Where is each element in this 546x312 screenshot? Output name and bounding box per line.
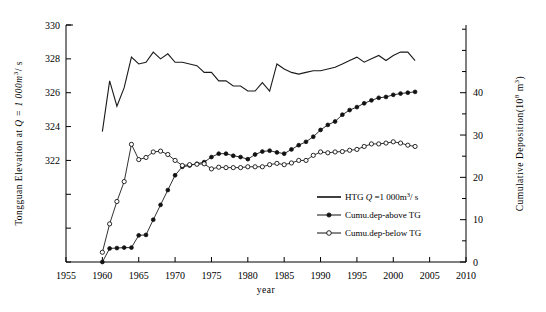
x-tick-label: 1990 [311,270,331,281]
series-line-0 [102,52,415,132]
series-marker-2 [166,152,170,156]
left-tick-label: 324 [45,121,60,132]
series-marker-2 [122,179,126,183]
right-tick-label: 40 [473,87,483,98]
series-marker-1 [399,92,403,96]
right-axis-title-close: ) [515,76,526,80]
series-marker-2 [144,155,148,159]
series-marker-2 [188,163,192,167]
series-marker-2 [282,163,286,167]
chart-root: 3223243263283300102030401955196019651970… [0,0,546,312]
series-marker-2 [195,162,199,166]
series-marker-2 [238,166,242,170]
legend-label-1: Cumu.dep-above TG [345,210,421,220]
series-marker-2 [231,166,235,170]
left-tick-label: 322 [45,155,60,166]
series-marker-1 [239,155,243,159]
series-marker-2 [224,166,228,170]
series-marker-1 [217,152,221,156]
series-marker-1 [297,143,301,147]
right-tick-label: 10 [473,214,483,225]
series-marker-2 [129,142,133,146]
x-tick-label: 2005 [420,270,440,281]
series-marker-2 [137,157,141,161]
series-marker-2 [384,141,388,145]
series-marker-1 [362,101,366,105]
series-marker-2 [289,161,293,165]
x-tick-label: 1995 [347,270,367,281]
series-marker-2 [246,165,250,169]
series-marker-1 [355,105,359,109]
x-tick-label: 1985 [274,270,294,281]
series-marker-1 [173,173,177,177]
series-marker-2 [355,147,359,151]
left-axis-title-q: Q = 1 000m [14,75,24,126]
series-marker-2 [369,142,373,146]
series-marker-2 [326,151,330,155]
series-marker-2 [340,149,344,153]
series-marker-1 [384,95,388,99]
legend-label-0: HTG Q =1 000m3/ s [345,191,419,203]
series-marker-1 [377,96,381,100]
series-marker-2 [377,142,381,146]
x-tick-label: 1955 [56,270,76,281]
series-marker-1 [268,149,272,153]
series-marker-1 [108,247,112,251]
series-marker-1 [166,188,170,192]
series-marker-1 [311,135,315,139]
series-marker-1 [333,120,337,124]
x-tick-label: 1965 [129,270,149,281]
series-marker-2 [391,140,395,144]
legend-label-pre-0: HTG [345,192,366,202]
series-marker-2 [413,144,417,148]
series-marker-1 [326,123,330,127]
x-tick-label: 1970 [165,270,185,281]
series-marker-2 [100,250,104,254]
series-marker-1 [406,91,410,95]
series-marker-1 [144,233,148,237]
series-marker-1 [290,148,294,152]
series-marker-2 [253,165,257,169]
right-axis-title-pre: Cumulative Deposition(10 [515,98,526,211]
right-axis-title-mid: m [515,83,525,94]
series-marker-2 [398,141,402,145]
series-marker-1 [224,152,228,156]
x-tick-label: 1960 [92,270,112,281]
series-marker-1 [260,150,264,154]
series-marker-2 [260,165,264,169]
legend-marker-1 [327,213,331,217]
series-marker-1 [413,90,417,94]
series-marker-2 [209,167,213,171]
x-axis-title: year [257,285,276,295]
series-marker-2 [151,150,155,154]
chart-canvas: 3223243263283300102030401955196019651970… [0,0,546,312]
legend-label-tail-0: / s [410,192,419,202]
right-tick-label: 20 [473,172,483,183]
left-axis-title: Tongguan Elevation at Q = 1 000m3/ s [12,61,24,226]
series-marker-1 [304,140,308,144]
series-marker-2 [275,161,279,165]
series-marker-1 [210,155,214,159]
left-tick-label: 328 [45,53,60,64]
series-marker-1 [122,246,126,250]
right-axis-title: Cumulative Deposition(108 m3) [513,76,526,212]
left-axis-title-post: / s [14,61,24,71]
series-marker-1 [151,218,155,222]
series-marker-2 [348,148,352,152]
left-tick-label: 330 [45,20,60,31]
series-marker-2 [304,158,308,162]
legend-label-2: Cumu.dep-below TG [345,228,422,238]
right-tick-label: 30 [473,130,483,141]
left-axis-title-pre: Tongguan Elevation at [14,127,24,226]
series-marker-2 [406,143,410,147]
series-marker-1 [159,203,163,207]
series-marker-1 [340,113,344,117]
series-marker-2 [333,150,337,154]
series-marker-1 [282,152,286,156]
series-marker-2 [202,162,206,166]
series-marker-1 [391,93,395,97]
series-marker-2 [115,199,119,203]
series-marker-1 [100,260,104,264]
series-marker-1 [253,153,257,157]
x-tick-label: 1975 [201,270,221,281]
